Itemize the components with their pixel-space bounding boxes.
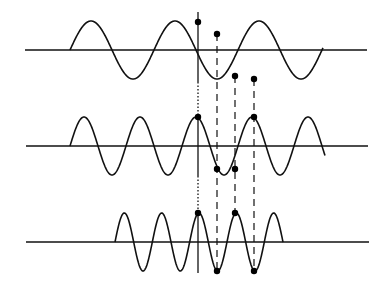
sample-dot	[232, 73, 238, 79]
sample-dot	[232, 210, 238, 216]
sample-dot	[195, 114, 201, 120]
wave-diagram	[0, 0, 389, 294]
sample-dot	[251, 268, 257, 274]
sample-dot	[195, 210, 201, 216]
sample-dot	[214, 166, 220, 172]
sample-dot	[232, 166, 238, 172]
sample-dot	[251, 76, 257, 82]
sample-dot	[251, 114, 257, 120]
sample-dot	[195, 19, 201, 25]
sample-dot	[214, 31, 220, 37]
dashed-guides	[217, 34, 254, 271]
sample-dot	[214, 268, 220, 274]
